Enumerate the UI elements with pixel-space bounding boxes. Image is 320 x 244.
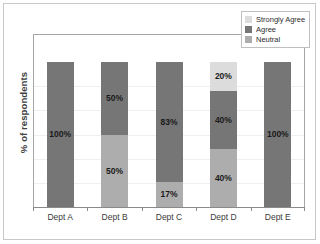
bar-segment-value-label: 100% (49, 130, 71, 139)
bar-segment-value-label: 40% (215, 116, 232, 125)
bar-segment[interactable]: 50% (101, 62, 128, 135)
bar-column: 83%17% (156, 34, 183, 207)
bar-segment-value-label: 40% (215, 174, 232, 183)
axis-tick (142, 207, 143, 211)
legend-label: Strongly Agree (256, 16, 305, 24)
bar-segment-value-label: 50% (106, 94, 123, 103)
category-label: Dept E (251, 212, 305, 222)
bar-segment[interactable]: 100% (47, 62, 74, 207)
bar-segment[interactable]: 17% (156, 182, 183, 207)
category-label: Dept D (196, 212, 250, 222)
legend-entry[interactable]: Agree (245, 25, 305, 34)
bar-segment-value-label: 100% (267, 130, 289, 139)
legend-entry[interactable]: Strongly Agree (245, 15, 305, 24)
bar-segment[interactable]: 50% (101, 135, 128, 208)
bars-layer: 100%50%50%83%17%20%40%40%100% (33, 34, 305, 207)
bar-segment[interactable]: 40% (210, 91, 237, 149)
category-label: Dept A (33, 212, 87, 222)
axis-tick (87, 207, 88, 211)
bar-stack[interactable]: 50%50% (101, 62, 128, 207)
chart-legend: Strongly AgreeAgreeNeutral (241, 11, 310, 48)
legend-label: Agree (256, 26, 276, 34)
bar-stack[interactable]: 100% (47, 62, 74, 207)
bar-segment-value-label: 83% (160, 118, 177, 127)
bar-column: 20%40%40% (210, 34, 237, 207)
axis-tick (304, 207, 305, 211)
axis-tick (251, 207, 252, 211)
y-axis-title: % of respondents (18, 43, 29, 183)
category-axis-labels: Dept ADept BDept CDept DDept E (33, 212, 305, 228)
bar-segment-value-label: 50% (106, 167, 123, 176)
bar-stack[interactable]: 100% (264, 62, 291, 207)
bar-stack[interactable]: 20%40%40% (210, 62, 237, 207)
legend-entry[interactable]: Neutral (245, 35, 305, 44)
category-axis-line (33, 207, 305, 208)
bar-segment[interactable]: 83% (156, 62, 183, 182)
legend-label: Neutral (256, 36, 280, 44)
bar-column: 50%50% (101, 34, 128, 207)
bar-stack[interactable]: 83%17% (156, 62, 183, 207)
legend-swatch-icon (245, 16, 252, 23)
bar-column: 100% (264, 34, 291, 207)
bar-column: 100% (47, 34, 74, 207)
legend-swatch-icon (245, 36, 252, 43)
legend-swatch-icon (245, 26, 252, 33)
category-label: Dept B (87, 212, 141, 222)
axis-tick (196, 207, 197, 211)
bar-segment-value-label: 20% (215, 72, 232, 81)
bar-segment[interactable]: 40% (210, 149, 237, 207)
axis-tick (33, 207, 34, 211)
stacked-bar-chart-figure: % of respondents 100%50%50%83%17%20%40%4… (0, 0, 320, 244)
category-label: Dept C (142, 212, 196, 222)
bar-segment[interactable]: 20% (210, 62, 237, 91)
bar-segment[interactable]: 100% (264, 62, 291, 207)
bar-segment-value-label: 17% (160, 190, 177, 199)
